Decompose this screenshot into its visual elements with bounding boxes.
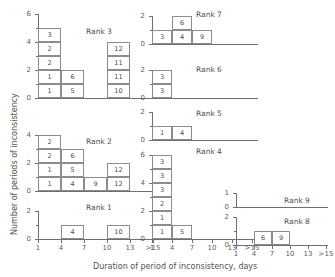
x-tick-label: 4 — [51, 245, 71, 252]
y-axis-line — [236, 193, 237, 208]
histogram-cell: 11 — [107, 56, 130, 70]
y-tick-label: 2 — [131, 67, 145, 74]
rank-label: Rank 2 — [86, 138, 112, 146]
rank-label: Rank 1 — [86, 204, 112, 212]
y-tick-label: 4 — [17, 132, 31, 139]
histogram-cell: 1 — [152, 211, 172, 225]
y-tick-label: 0 — [131, 95, 145, 102]
histogram-cell: 2 — [38, 149, 61, 163]
histogram-cell: 1 — [38, 84, 61, 98]
y-tick-label: 2 — [17, 67, 31, 74]
x-tick — [152, 240, 153, 243]
x-tick — [252, 240, 253, 243]
x-tick — [212, 240, 213, 243]
y-tick — [233, 217, 236, 218]
histogram-cell: 9 — [192, 30, 212, 44]
x-tick-label: 10 — [280, 251, 300, 258]
histogram-cell: 2 — [152, 197, 172, 211]
y-axis-line — [236, 217, 237, 246]
x-tick-label: >15 — [316, 251, 335, 258]
x-axis-line — [152, 44, 258, 45]
x-tick-label: 7 — [182, 245, 202, 252]
histogram-cell: 4 — [61, 177, 84, 191]
x-tick — [232, 240, 233, 243]
y-tick-label: 0 — [215, 242, 229, 249]
histogram-cell: 10 — [107, 225, 130, 239]
x-axis-title: Duration of period of inconsistency, day… — [93, 262, 257, 271]
histogram-cell: 1 — [38, 70, 61, 84]
x-tick — [272, 246, 273, 249]
histogram-cell: 4 — [172, 126, 192, 140]
x-axis-line — [152, 98, 258, 99]
y-tick-label: 0 — [131, 41, 145, 48]
x-tick-label: 13 — [298, 251, 318, 258]
y-tick-label: 2 — [17, 208, 31, 215]
histogram-cell: 11 — [107, 70, 130, 84]
histogram-cell: 1 — [38, 163, 61, 177]
rank-label: Rank 3 — [86, 28, 112, 36]
x-tick-label: 4 — [244, 251, 264, 258]
histogram-cell: 3 — [152, 84, 172, 98]
x-tick — [172, 240, 173, 243]
x-tick-label: 1 — [142, 245, 162, 252]
histogram-cell: 3 — [152, 155, 172, 169]
histogram-cell: 5 — [61, 84, 84, 98]
y-tick-label: 2 — [131, 109, 145, 116]
y-tick-label: 0 — [131, 137, 145, 144]
x-tick-label: 1 — [28, 245, 48, 252]
histogram-cell: 9 — [272, 231, 290, 245]
y-tick-label: 6 — [131, 152, 145, 159]
x-tick — [107, 240, 108, 243]
y-axis-line — [38, 211, 39, 240]
y-tick — [149, 16, 152, 17]
histogram-cell: 5 — [61, 163, 84, 177]
rank-label: Rank 6 — [196, 66, 222, 74]
y-tick-label: 2 — [215, 214, 229, 221]
y-tick — [35, 211, 38, 212]
histogram-cell: 6 — [172, 16, 192, 30]
rank-label: Rank 8 — [284, 218, 310, 226]
x-tick — [254, 246, 255, 249]
histogram-cell: 3 — [152, 183, 172, 197]
x-axis-line — [152, 140, 258, 141]
x-tick — [38, 240, 39, 243]
histogram-cell: 5 — [172, 225, 192, 239]
y-tick-label: 4 — [131, 180, 145, 187]
y-tick-minor — [234, 231, 236, 232]
rank-label: Rank 9 — [284, 197, 310, 205]
histogram-cell: 6 — [61, 149, 84, 163]
y-tick-minor — [36, 225, 38, 226]
histogram-cell: 3 — [38, 28, 61, 42]
histogram-cell: 1 — [152, 126, 172, 140]
rank-label: Rank 7 — [196, 11, 222, 19]
y-tick-label: 2 — [17, 160, 31, 167]
histogram-cell: 3 — [152, 30, 172, 44]
y-tick-label: 0 — [17, 236, 31, 243]
histogram-cell: 2 — [38, 56, 61, 70]
x-tick-label: 10 — [97, 245, 117, 252]
y-tick — [149, 112, 152, 113]
histogram-cell: 1 — [38, 177, 61, 191]
histogram-cell: 3 — [152, 169, 172, 183]
x-tick — [236, 246, 237, 249]
x-tick — [84, 240, 85, 243]
x-axis-line — [236, 207, 328, 208]
y-tick — [233, 193, 236, 194]
histogram-cell: 12 — [107, 163, 130, 177]
y-tick — [35, 98, 38, 99]
y-tick-label: 0 — [17, 95, 31, 102]
x-tick — [61, 240, 62, 243]
y-tick — [149, 98, 152, 99]
y-tick — [35, 191, 38, 192]
x-tick-label: 7 — [74, 245, 94, 252]
y-tick-label: 0 — [131, 236, 145, 243]
histogram-cell: 6 — [61, 70, 84, 84]
histogram-cell: 6 — [254, 231, 272, 245]
y-tick-label: 4 — [17, 39, 31, 46]
x-tick-label: 13 — [120, 245, 140, 252]
x-tick-label: 7 — [262, 251, 282, 258]
y-tick — [233, 207, 236, 208]
histogram-cell: 2 — [38, 42, 61, 56]
x-axis-line — [38, 191, 156, 192]
histogram-cell: 10 — [107, 84, 130, 98]
